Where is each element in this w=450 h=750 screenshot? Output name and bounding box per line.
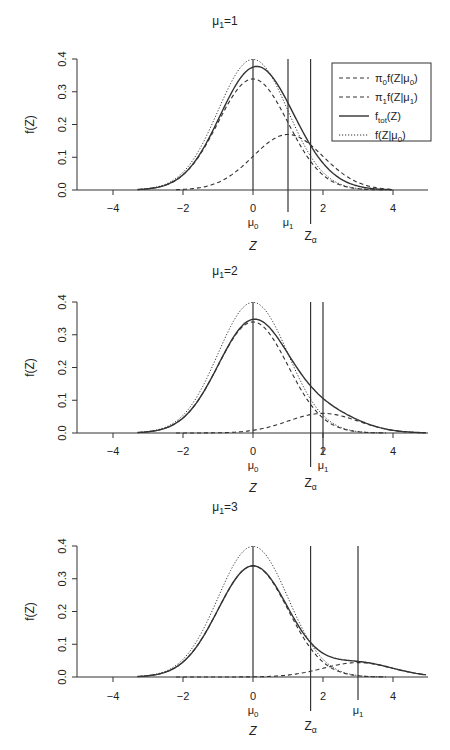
x-tick-label: 4 <box>390 690 396 702</box>
mu0-label: μ0 <box>248 216 259 231</box>
x-tick-label: −4 <box>107 690 120 702</box>
mu1-label: μ1 <box>353 704 364 719</box>
y-tick-label: 0.1 <box>56 393 68 408</box>
y-tick-label: 0.0 <box>56 425 68 440</box>
y-tick-label: 0.4 <box>56 294 68 309</box>
curve-pi1-component <box>176 135 393 190</box>
curve-f-null <box>141 546 386 677</box>
y-axis-label: f(Z) <box>23 358 37 377</box>
x-axis-label: Z <box>248 724 257 738</box>
x-tick-label: −2 <box>177 202 190 214</box>
figure: μ1=10.00.10.20.30.4f(Z)−4−2024Zμ0μ1Zαπ0f… <box>0 0 450 750</box>
panel-mu1-3: μ1=30.00.10.20.30.4f(Z)−4−2024Zμ0μ1Zα <box>23 500 428 738</box>
y-axis-label: f(Z) <box>23 602 37 621</box>
y-tick-label: 0.1 <box>56 150 68 165</box>
curve-f-tot <box>138 566 426 677</box>
panel-title: μ1=2 <box>212 264 238 280</box>
x-axis-label: Z <box>248 481 257 495</box>
y-tick-label: 0.0 <box>56 669 68 684</box>
y-axis-label: f(Z) <box>23 115 37 134</box>
y-tick-label: 0.2 <box>56 360 68 375</box>
y-tick-label: 0.1 <box>56 637 68 652</box>
y-tick-label: 0.3 <box>56 84 68 99</box>
x-tick-label: −4 <box>107 202 120 214</box>
mu1-label: μ1 <box>283 216 294 231</box>
x-tick-label: −2 <box>177 445 190 457</box>
x-tick-label: 2 <box>320 202 326 214</box>
legend-label: f(Z|μ0) <box>375 129 406 144</box>
panel-mu1-1: μ1=10.00.10.20.30.4f(Z)−4−2024Zμ0μ1Zαπ0f… <box>23 14 431 253</box>
y-tick-label: 0.3 <box>56 327 68 342</box>
y-tick-label: 0.2 <box>56 604 68 619</box>
x-tick-label: 4 <box>390 445 396 457</box>
z-alpha-label: Zα <box>304 719 316 735</box>
legend: π0f(Z|μ0)π1f(Z|μ1)ftot(Z)f(Z|μ0) <box>332 63 431 144</box>
x-tick-label: 0 <box>250 690 256 702</box>
y-tick-label: 0.4 <box>56 51 68 66</box>
z-alpha-label: Zα <box>304 476 316 492</box>
mu0-label: μ0 <box>248 459 259 474</box>
mu1-label: μ1 <box>318 459 329 474</box>
y-tick-label: 0.4 <box>56 538 68 553</box>
curve-pi1-component <box>176 413 424 433</box>
panel-title: μ1=3 <box>212 500 238 516</box>
z-alpha-label: Zα <box>304 229 316 245</box>
y-tick-label: 0.2 <box>56 117 68 132</box>
panel-title: μ1=1 <box>212 14 238 30</box>
x-tick-label: 0 <box>250 445 256 457</box>
x-tick-label: 0 <box>250 202 256 214</box>
curve-pi0-component <box>138 322 386 433</box>
y-tick-label: 0.3 <box>56 571 68 586</box>
x-axis-label: Z <box>248 239 257 253</box>
chart-canvas: μ1=10.00.10.20.30.4f(Z)−4−2024Zμ0μ1Zαπ0f… <box>0 0 450 750</box>
curve-f-tot <box>138 319 426 433</box>
x-tick-label: 4 <box>390 202 396 214</box>
x-tick-label: −2 <box>177 690 190 702</box>
x-tick-label: −4 <box>107 445 120 457</box>
y-tick-label: 0.0 <box>56 182 68 197</box>
panel-mu1-2: μ1=20.00.10.20.30.4f(Z)−4−2024Zμ0μ1Zα <box>23 264 428 495</box>
x-tick-label: 2 <box>320 690 326 702</box>
curve-pi1-component <box>176 663 424 677</box>
mu0-label: μ0 <box>248 704 259 719</box>
